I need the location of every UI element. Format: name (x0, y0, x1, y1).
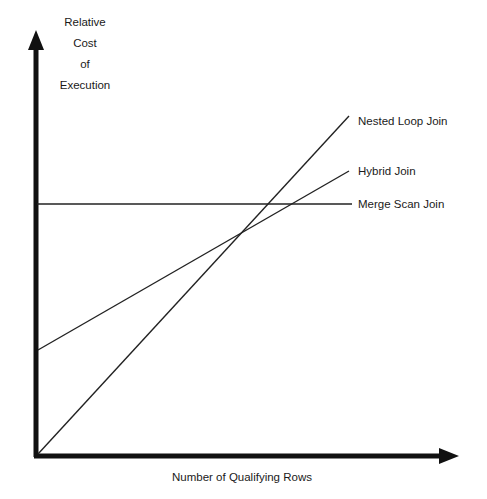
join-cost-comparison-chart: Relative Cost of Execution Number of Qua… (0, 0, 487, 499)
y-axis-title-line-2: Cost (73, 37, 97, 49)
chart-background (0, 0, 487, 499)
x-axis-title: Number of Qualifying Rows (172, 471, 312, 483)
series-label-hybrid-join: Hybrid Join (358, 165, 416, 177)
y-axis-title-line-1: Relative (64, 16, 106, 28)
y-axis-title-line-4: Execution (60, 79, 111, 91)
series-label-nested-loop-join: Nested Loop Join (358, 115, 448, 127)
series-label-merge-scan-join: Merge Scan Join (358, 198, 444, 210)
y-axis-title-line-3: of (80, 58, 90, 70)
chart-canvas: Relative Cost of Execution Number of Qua… (0, 0, 487, 499)
